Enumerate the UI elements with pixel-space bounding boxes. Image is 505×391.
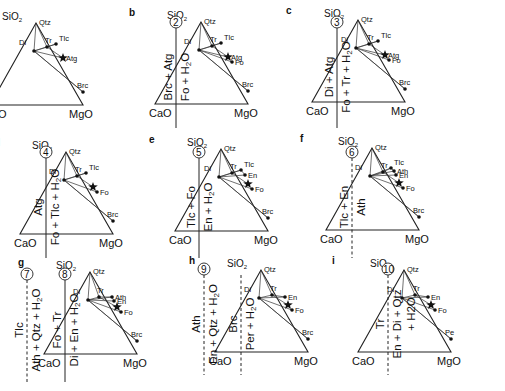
phase-point xyxy=(354,46,358,50)
panel-letter: h xyxy=(189,255,195,266)
reaction-products: En + H2O xyxy=(202,183,216,232)
phase-label-brc: Brc xyxy=(399,78,411,87)
reaction-number: 8 xyxy=(62,269,68,280)
reaction-products: Di + En + H2O xyxy=(68,294,82,367)
panel-letter: g xyxy=(18,257,24,268)
phase-point xyxy=(243,173,247,177)
phase-point xyxy=(394,173,398,177)
tie-line xyxy=(259,298,308,339)
panel-letter: f xyxy=(300,133,304,144)
phase-label-tr: Tr xyxy=(270,284,277,293)
phase-point xyxy=(389,166,393,170)
phase-label-tr: Tr xyxy=(75,165,82,174)
phase-point xyxy=(417,215,421,219)
phase-point xyxy=(32,49,36,53)
qtz-label: Qtz xyxy=(375,143,387,152)
phase-label-tlc: Tlc xyxy=(394,158,404,167)
phase-label-brc: Brc xyxy=(107,210,119,219)
reaction-number: 5 xyxy=(196,147,202,158)
phase-label-en: En xyxy=(248,171,257,180)
reaction-reactants: Fo + Tr xyxy=(51,311,63,348)
reaction-10: 10TrEn + Di + Qtz+ H2O xyxy=(374,263,417,375)
phase-point xyxy=(387,58,391,62)
reaction-reactants: Ath xyxy=(190,315,202,332)
phase-point xyxy=(306,337,310,341)
reaction-number: 7 xyxy=(24,269,30,280)
phase-point xyxy=(381,170,385,174)
phase-point xyxy=(112,299,116,303)
phase-point xyxy=(54,42,58,46)
phase-point xyxy=(392,169,396,173)
phase-label-fo: Fo xyxy=(235,58,244,67)
cao-label: CaO xyxy=(306,105,329,117)
phase-point xyxy=(111,219,115,223)
mgo-label: MgO xyxy=(99,237,123,249)
phase-label-atg: Atg xyxy=(66,54,77,63)
reaction-reactants: Tlc + En xyxy=(338,186,350,229)
mgo-label: MgO xyxy=(391,105,415,117)
phase-label-tr: Tr xyxy=(230,162,237,171)
tie-line xyxy=(88,300,114,301)
reaction-reactants: Tr xyxy=(374,319,386,330)
reaction-number: 2 xyxy=(173,17,179,28)
phase-label-brc: Brc xyxy=(413,206,425,215)
phase-label-brc: Brc xyxy=(77,81,89,90)
reaction-products: En + Di + Qtz xyxy=(391,289,403,358)
reaction-unnumbered: BrcPer + H2O xyxy=(227,275,258,375)
mgo-label: MgO xyxy=(254,234,278,246)
phase-point xyxy=(217,175,221,179)
tie-line xyxy=(259,270,261,298)
phase-label-en: En xyxy=(431,293,440,302)
reaction-number: 4 xyxy=(43,147,49,158)
phase-point xyxy=(449,337,453,341)
panel-letter: e xyxy=(149,134,155,145)
qtz-label: Qtz xyxy=(361,15,373,24)
phase-label-pe: Pe xyxy=(445,328,454,337)
reaction-7: 7TlcAth + Qtz + H2O xyxy=(13,268,44,382)
phase-label-brc: Brc xyxy=(302,328,314,337)
phase-point xyxy=(270,293,274,297)
phase-label-tr: Tr xyxy=(45,36,52,45)
phase-point xyxy=(75,174,79,178)
reaction-products: Ath + Qtz + H2O xyxy=(30,288,44,371)
mgo-label: MgO xyxy=(123,357,147,369)
phase-point xyxy=(97,295,101,299)
tie-line xyxy=(88,272,90,300)
cao-label: CaO xyxy=(149,107,172,119)
phase-point xyxy=(210,44,214,48)
panel-letter: b xyxy=(129,7,135,18)
phase-label-tr: Tr xyxy=(97,286,104,295)
phase-label-fo: Fo xyxy=(406,184,415,193)
tie-line xyxy=(64,152,66,180)
phase-label-tr: Tr xyxy=(381,161,388,170)
mgo-label: MgO xyxy=(294,355,318,367)
phase-label-fo: Fo xyxy=(124,308,133,317)
phase-point xyxy=(230,60,234,64)
qtz-label: Qtz xyxy=(224,144,236,153)
reaction-number: 3 xyxy=(334,17,340,28)
panel-letter: i xyxy=(332,255,335,266)
phase-point xyxy=(45,45,49,49)
qtz-label: Qtz xyxy=(407,265,419,274)
phase-label-brc: Brc xyxy=(262,207,274,216)
panel-letter: c xyxy=(286,5,292,16)
phase-point xyxy=(230,171,234,175)
panel-d: dSiO2QtzCaOMgODiTrTlcFoBrc xyxy=(0,137,123,249)
phase-point xyxy=(376,39,380,43)
qtz-label: Qtz xyxy=(39,18,51,27)
phase-label-fo: Fo xyxy=(438,306,447,315)
reaction-products-line2: + H2O xyxy=(405,297,417,331)
phase-label-di: Di xyxy=(355,163,362,172)
phase-point xyxy=(283,295,287,299)
phase-label-brc: Brc xyxy=(131,330,143,339)
reaction-products: En + Qtz + H2O xyxy=(207,284,221,364)
phase-point xyxy=(84,171,88,175)
mgo-label: MgO xyxy=(234,107,258,119)
phase-label-di: Di xyxy=(19,38,26,47)
phase-label-fo: Fo xyxy=(100,188,109,197)
reaction-number: 6 xyxy=(349,147,355,158)
phase-point xyxy=(368,174,372,178)
tie-line xyxy=(370,176,419,217)
phase-label-tlc: Tlc xyxy=(59,34,69,43)
phase-point xyxy=(86,298,90,302)
